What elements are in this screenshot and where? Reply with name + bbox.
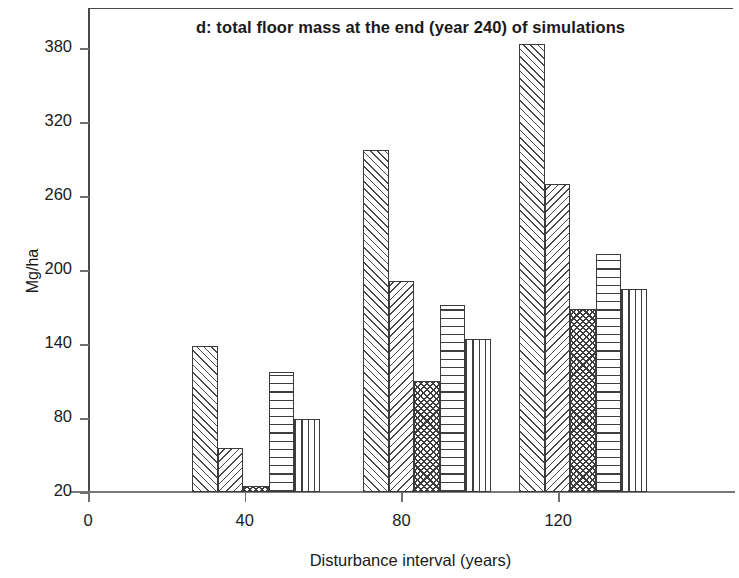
chart-root: d: total floor mass at the end (year 240… <box>0 0 739 578</box>
bar-80-series-4 <box>440 305 466 492</box>
bar-120-series-4 <box>596 254 622 492</box>
bar-80-series-1 <box>363 150 389 492</box>
bar-120-series-2 <box>545 184 571 492</box>
bar-40-series-1 <box>192 346 218 492</box>
bar-40-series-3 <box>243 486 269 492</box>
x-tick-mark <box>558 491 560 502</box>
x-tick-label: 0 <box>58 511 118 530</box>
bar-120-series-3 <box>570 309 596 492</box>
bar-80-series-3 <box>414 381 440 492</box>
bar-120-series-5 <box>621 289 647 493</box>
x-tick-mark <box>245 491 247 502</box>
x-tick-label: 120 <box>528 511 588 530</box>
bar-40-series-4 <box>269 372 295 492</box>
bar-80-series-2 <box>389 281 415 492</box>
bar-120-series-1 <box>519 44 545 492</box>
x-tick-mark <box>88 491 90 502</box>
x-tick-label: 40 <box>215 511 275 530</box>
x-axis-label: Disturbance interval (years) <box>88 551 733 570</box>
x-tick-label: 80 <box>371 511 431 530</box>
x-tick-mark <box>401 491 403 502</box>
bar-40-series-5 <box>294 419 320 492</box>
bar-80-series-5 <box>465 339 491 492</box>
bar-40-series-2 <box>218 448 244 492</box>
bars-layer <box>0 0 739 492</box>
